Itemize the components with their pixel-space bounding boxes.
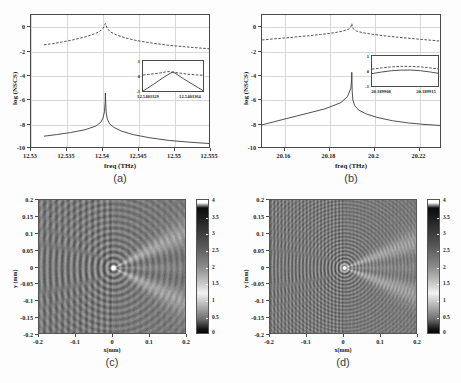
y-tick-label: 0.15 xyxy=(16,212,33,219)
tick-mark xyxy=(206,333,208,334)
tick-mark xyxy=(75,334,76,337)
inset-x-tick-label: 12.5403329 xyxy=(137,94,159,99)
panel-b-inset-curves xyxy=(372,56,439,87)
x-tick-label: -0.1 xyxy=(301,338,311,345)
tick-mark xyxy=(149,334,150,337)
y-tick-label: 0.1 xyxy=(16,229,33,236)
colorbar-tick-label: 2 xyxy=(212,264,215,270)
panel-a-ylabel: log (NSCS) xyxy=(11,72,19,105)
tick-mark xyxy=(27,51,30,52)
colorbar-tick-label: 1.5 xyxy=(443,280,450,286)
tick-mark xyxy=(437,333,439,334)
tick-mark xyxy=(269,334,270,337)
y-tick-label: 0 xyxy=(16,263,33,270)
x-tick-label: 12.555 xyxy=(200,152,217,159)
tick-mark xyxy=(266,250,269,251)
colorbar-tick-label: 0.5 xyxy=(443,314,450,320)
tick-mark xyxy=(30,148,31,151)
x-tick-label: -0.2 xyxy=(33,338,43,345)
panel-c-heatmap xyxy=(38,199,186,334)
x-tick-label: 20.18 xyxy=(322,152,336,159)
tick-mark xyxy=(306,334,307,337)
tick-mark xyxy=(206,268,208,269)
panel-c-xlabel: x(mm) xyxy=(104,347,121,353)
x-tick-label: 20.22 xyxy=(412,152,426,159)
y-tick-label: -8 xyxy=(243,120,256,127)
panel-a-xlabel: freq (THz) xyxy=(104,162,136,170)
tick-mark xyxy=(206,318,208,319)
tick-mark xyxy=(437,234,439,235)
colorbar-tick-label: 2 xyxy=(443,264,446,270)
panel-a-caption: (a) xyxy=(113,172,126,184)
colorbar-tick-label: 3 xyxy=(212,230,215,236)
tick-mark xyxy=(329,148,330,151)
x-tick-label: 12.54 xyxy=(95,152,109,159)
y-tick-label: -0.15 xyxy=(14,314,33,321)
panel-d-caption: (d) xyxy=(336,356,349,368)
panel-b-xlabel: freq (THz) xyxy=(335,162,367,170)
tick-mark xyxy=(258,51,261,52)
panel-d-ylabel: y (mm) xyxy=(243,270,249,289)
tick-mark xyxy=(258,75,261,76)
colorbar-tick-label: 1 xyxy=(212,297,215,303)
y-tick-label: -0.2 xyxy=(14,331,33,338)
x-tick-label: 0 xyxy=(341,338,344,345)
tick-mark xyxy=(437,201,439,202)
colorbar-tick-label: 0.5 xyxy=(212,314,219,320)
tick-mark xyxy=(258,124,261,125)
x-tick-label: 12.55 xyxy=(167,152,181,159)
panel-a-inset xyxy=(142,60,204,92)
colorbar-tick-label: 0 xyxy=(212,329,215,335)
y-tick-label: -0.1 xyxy=(245,297,264,304)
y-tick-label: 0.15 xyxy=(247,212,264,219)
panel-c-caption: (c) xyxy=(106,356,119,368)
panel-d-colorbar xyxy=(427,199,440,334)
inset-x-tick-label: 12.5403364 xyxy=(179,94,201,99)
tick-mark xyxy=(210,148,211,151)
tick-mark xyxy=(102,148,103,151)
x-tick-label: -0.2 xyxy=(264,338,274,345)
tick-mark xyxy=(66,148,67,151)
tick-mark xyxy=(284,148,285,151)
x-tick-label: 0 xyxy=(110,338,113,345)
colorbar-tick-label: 1.5 xyxy=(212,280,219,286)
y-tick-label: -2 xyxy=(243,47,256,54)
tick-mark xyxy=(206,251,208,252)
tick-mark xyxy=(206,301,208,302)
colorbar-tick-label: 2.5 xyxy=(443,247,450,253)
x-tick-label: 20.16 xyxy=(277,152,291,159)
tick-mark xyxy=(35,283,38,284)
tick-mark xyxy=(258,26,261,27)
tick-mark xyxy=(27,124,30,125)
tick-mark xyxy=(266,283,269,284)
tick-mark xyxy=(258,99,261,100)
tick-mark xyxy=(35,233,38,234)
colorbar-tick-label: 3.5 xyxy=(443,214,450,220)
panel-c: 0.2 0.15 0.1 0.05 0 -0.05 -0.1 -0.15 -0.… xyxy=(0,190,230,383)
y-tick-label: 0.2 xyxy=(247,196,264,203)
panel-c-ylabel: y (mm) xyxy=(12,270,18,289)
tick-mark xyxy=(206,201,208,202)
tick-mark xyxy=(27,75,30,76)
inset-x-tick-label: 20.189915 xyxy=(416,89,436,94)
tick-mark xyxy=(35,216,38,217)
colorbar-tick-label: 4 xyxy=(212,197,215,203)
colorbar-tick-label: 4 xyxy=(443,197,446,203)
y-tick-label: -10 xyxy=(10,144,25,151)
colorbar-tick-label: 0 xyxy=(443,329,446,335)
colorbar-tick-label: 2.5 xyxy=(212,247,219,253)
tick-mark xyxy=(437,301,439,302)
panel-d: 0.2 0.15 0.1 0.05 0 -0.05 -0.1 -0.15 -0.… xyxy=(231,190,461,383)
tick-mark xyxy=(437,318,439,319)
x-tick-label: 0.2 xyxy=(182,338,190,345)
panel-d-field-image xyxy=(270,200,417,334)
tick-mark xyxy=(266,300,269,301)
y-tick-label: 0 xyxy=(247,263,264,270)
tick-mark xyxy=(112,334,113,337)
panel-b-ylabel: log (NSCS) xyxy=(242,72,250,105)
tick-mark xyxy=(266,267,269,268)
y-tick-label: 0.2 xyxy=(16,196,33,203)
panel-b-caption: (b) xyxy=(344,172,357,184)
tick-mark xyxy=(380,334,381,337)
inset-y-tick-label: -1 xyxy=(129,89,140,94)
